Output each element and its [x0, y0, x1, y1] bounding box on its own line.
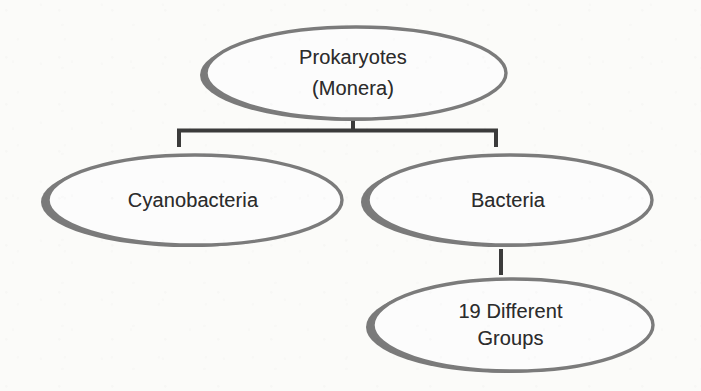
node-prokaryotes[interactable]: Prokaryotes (Monera): [196, 22, 510, 124]
node-groups[interactable]: 19 Different Groups: [363, 274, 658, 376]
node-bacteria[interactable]: Bacteria: [358, 150, 658, 250]
node-cyanobacteria-label: Cyanobacteria: [102, 185, 284, 216]
diagram-canvas: Prokaryotes (Monera) Cyanobacteria Bacte…: [0, 0, 701, 391]
node-bacteria-label: Bacteria: [445, 185, 571, 216]
node-groups-label: 19 Different Groups: [432, 298, 588, 352]
node-cyanobacteria[interactable]: Cyanobacteria: [38, 150, 348, 250]
node-prokaryotes-label: Prokaryotes (Monera): [273, 42, 433, 104]
